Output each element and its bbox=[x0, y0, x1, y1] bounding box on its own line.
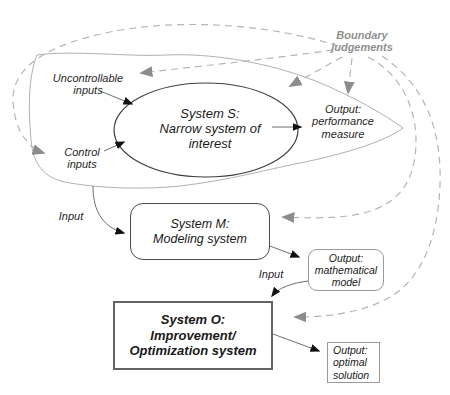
system-s-label: System S: Narrow system of interest bbox=[159, 106, 260, 151]
dashed-arrow-to-output-performance bbox=[348, 58, 352, 93]
dashed-arrow-to-uncontrollable-inputs bbox=[141, 50, 333, 73]
arrow-system-m-to-math-model bbox=[270, 246, 299, 257]
arrow-blob-to-system-m bbox=[93, 186, 124, 233]
uncontrollable-inputs-label: Uncontrollable inputs bbox=[53, 72, 123, 97]
boundary-judgements-label: Boundary judgements bbox=[331, 29, 393, 54]
output-mathematical-box: Output: mathematical model bbox=[308, 249, 384, 291]
arrow-math-model-to-system-o bbox=[272, 281, 308, 296]
systems-diagram: Boundary judgements Uncontrollable input… bbox=[0, 0, 450, 395]
control-inputs-label: Control inputs bbox=[64, 146, 99, 171]
system-o-box: System O: Improvement/ Optimization syst… bbox=[113, 301, 273, 370]
arrow-system-o-to-output-optimal bbox=[273, 334, 319, 351]
output-performance-label: Output: performance measure bbox=[312, 103, 374, 140]
input-modeling-label: Input bbox=[59, 210, 83, 222]
input-optimization-label: Input bbox=[259, 268, 283, 280]
system-m-box: System M: Modeling system bbox=[130, 203, 270, 260]
output-optimal-box: Output: optimal solution bbox=[327, 342, 380, 383]
